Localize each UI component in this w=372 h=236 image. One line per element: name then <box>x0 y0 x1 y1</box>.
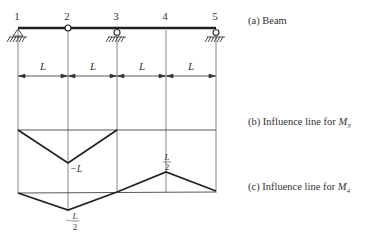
caption-b-sub: 3 <box>347 122 351 130</box>
span-label: L <box>138 60 145 72</box>
roller-support-icon <box>106 30 126 43</box>
caption-b-var: M <box>338 116 347 127</box>
svg-text:−: − <box>65 215 70 225</box>
node-label-2: 2 <box>64 10 70 22</box>
span-labels: L L L L <box>39 60 194 72</box>
value-label-minus-l: −L <box>70 163 83 174</box>
svg-text:2: 2 <box>73 222 78 232</box>
roller-support-icon <box>205 30 225 43</box>
span-label: L <box>39 60 46 72</box>
pin-support-icon <box>7 29 27 42</box>
caption-b: (b) Influence line for M3 <box>248 116 351 130</box>
caption-c: (c) Influence line for M4 <box>248 181 350 195</box>
caption-c-var: M <box>338 181 347 192</box>
vertical-guides <box>18 30 216 211</box>
svg-text:L: L <box>163 152 169 162</box>
value-label-minus-l-half: L − 2 <box>65 211 79 232</box>
span-label: L <box>187 60 194 72</box>
node-label-3: 3 <box>113 10 119 22</box>
node-label-4: 4 <box>162 10 168 22</box>
svg-text:L: L <box>71 211 77 221</box>
caption-c-text: (c) Influence line for <box>248 181 338 192</box>
span-label: L <box>89 60 96 72</box>
node-label-5: 5 <box>212 10 218 22</box>
influence-line-m3 <box>18 130 117 163</box>
value-label-plus-l-half: L 2 <box>163 152 171 172</box>
hinge-icon <box>65 25 71 31</box>
node-label-1: 1 <box>14 10 20 22</box>
caption-b-text: (b) Influence line for <box>248 116 338 127</box>
node-labels: 1 2 3 4 5 <box>14 10 218 22</box>
caption-c-sub: 4 <box>347 187 351 195</box>
caption-a: (a) Beam <box>248 15 287 26</box>
svg-text:2: 2 <box>165 162 170 172</box>
